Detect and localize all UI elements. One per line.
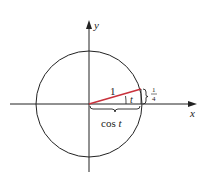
angle-arc: [126, 96, 127, 104]
x-axis-label: x: [189, 107, 195, 119]
base-brace: [90, 106, 140, 112]
radius-label: 1: [110, 85, 116, 97]
unit-circle-diagram: x y 1 t 1 4 cos t: [0, 0, 207, 177]
height-label-denominator: 4: [152, 95, 156, 103]
height-brace: [143, 89, 148, 104]
height-label-numerator: 1: [152, 86, 156, 94]
base-label: cos t: [101, 117, 122, 129]
y-axis-arrow-icon: [86, 20, 92, 29]
y-axis-label: y: [93, 19, 99, 31]
angle-label: t: [130, 94, 133, 105]
